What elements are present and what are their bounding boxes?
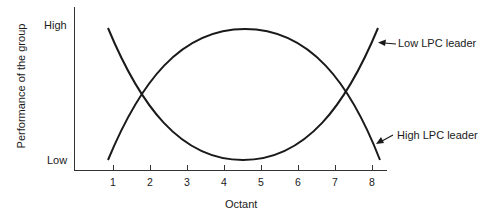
x-tick-3: 3 [180,176,194,188]
x-tick-8: 8 [365,176,379,188]
high-lpc-curve [108,29,380,160]
x-tick-4: 4 [217,176,231,188]
x-ticks [114,165,373,170]
x-tick-7: 7 [328,176,342,188]
annotation-low-lpc: Low LPC leader [398,37,476,49]
annotation-high-lpc: High LPC leader [397,129,478,141]
x-tick-5: 5 [254,176,268,188]
x-tick-6: 6 [291,176,305,188]
x-tick-2: 2 [143,176,157,188]
arrow-icon-low [378,40,396,47]
y-tick-low: Low [47,154,67,166]
y-tick-high: High [44,19,67,31]
y-axis-label: Performance of the group [15,16,27,156]
x-axis-label: Octant [225,198,257,210]
x-tick-1: 1 [106,176,120,188]
low-lpc-curve [108,28,378,160]
arrow-icon-high [376,135,393,144]
chart-canvas [0,0,490,221]
